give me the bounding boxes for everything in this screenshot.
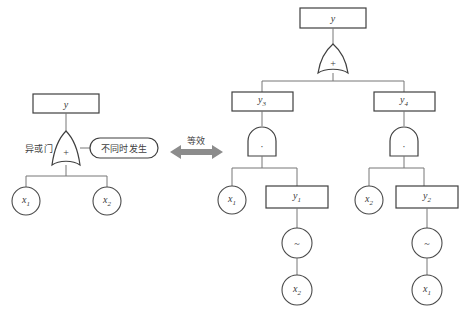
right-mid-box-y4 bbox=[374, 92, 435, 111]
left-annotation-box bbox=[90, 138, 158, 158]
fault-tree-diagram: .bx{ fill:#ffffff; stroke:#3f3f3f; strok… bbox=[0, 0, 468, 317]
equivalence-arrow-shape bbox=[170, 145, 223, 159]
right-top-box bbox=[300, 8, 366, 28]
left-xor-gate-shape bbox=[52, 131, 80, 165]
left-and-gate-shape bbox=[248, 127, 276, 156]
right-branch-right-leaf-x1 bbox=[412, 275, 442, 305]
right-branch-right-not-gate bbox=[412, 228, 442, 258]
right-branch-left-box-y1 bbox=[266, 186, 328, 208]
right-branch-right-circle-x2 bbox=[355, 186, 383, 214]
right-branch-left-circle-x1 bbox=[218, 186, 246, 214]
right-branch-left-not-gate bbox=[282, 228, 312, 258]
left-leaf-circle-x1 bbox=[12, 187, 40, 215]
right-mid-box-y3 bbox=[232, 92, 293, 111]
left-leaf-circle-x2 bbox=[93, 187, 121, 215]
right-and-gate-shape bbox=[390, 127, 418, 156]
diagram-canvas: .bx{ fill:#ffffff; stroke:#3f3f3f; strok… bbox=[0, 0, 468, 317]
left-top-box bbox=[33, 94, 99, 113]
right-or-gate-shape bbox=[318, 44, 348, 73]
right-branch-right-box-y2 bbox=[396, 186, 458, 208]
right-branch-left-leaf-x2 bbox=[282, 275, 312, 305]
